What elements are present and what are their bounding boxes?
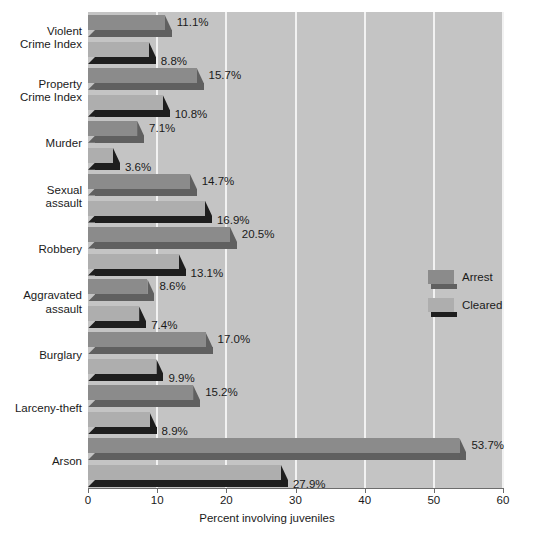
category-label-line: Murder [0, 137, 82, 151]
x-tick-10 [157, 488, 158, 493]
category-label-line: Violent [0, 25, 82, 39]
value-label-cleared-8: 8.9% [162, 425, 188, 437]
category-label-1: ViolentCrime Index [0, 25, 82, 52]
x-tick-label-60: 60 [483, 494, 523, 506]
category-label-line: Burglary [0, 349, 82, 363]
bar-cleared-6 [88, 306, 139, 321]
bar-face [88, 201, 205, 216]
bar-cleared-9 [88, 465, 281, 480]
bar-shadow [95, 57, 156, 64]
bar-shadow [95, 30, 172, 37]
x-tick-40 [365, 488, 366, 493]
bar-shadow [95, 269, 186, 276]
bar-face [88, 332, 206, 347]
value-label-arrest-5: 20.5% [242, 228, 275, 240]
value-label-arrest-4: 14.7% [202, 175, 235, 187]
bar-face [88, 254, 179, 269]
x-tick-60 [503, 488, 504, 493]
bar-face [88, 412, 150, 427]
category-label-8: Larceny-theft [0, 402, 82, 416]
bar-face [88, 438, 459, 453]
category-label-3: Murder [0, 137, 82, 151]
bar-cleared-8 [88, 412, 150, 427]
bar-arrest-2 [88, 68, 197, 83]
category-label-2: PropertyCrime Index [0, 78, 82, 105]
value-label-arrest-3: 7.1% [149, 122, 175, 134]
value-label-arrest-1: 11.1% [177, 16, 209, 28]
bar-shadow [95, 321, 146, 328]
category-label-7: Burglary [0, 349, 82, 363]
bar-arrest-8 [88, 385, 193, 400]
bar-shadow [95, 83, 204, 90]
gridline-30 [295, 12, 297, 488]
bar-arrest-4 [88, 174, 190, 189]
x-tick-label-0: 0 [68, 494, 108, 506]
bar-cleared-1 [88, 42, 149, 57]
bar-cleared-4 [88, 201, 205, 216]
legend-swatch-cleared [428, 298, 454, 312]
bar-arrest-3 [88, 121, 137, 136]
bar-face [88, 148, 113, 163]
value-label-cleared-7: 9.9% [168, 372, 194, 384]
value-label-arrest-9: 53.7% [471, 439, 504, 451]
x-tick-label-10: 10 [137, 494, 177, 506]
x-axis-title: Percent involving juveniles [0, 512, 534, 524]
category-label-line: Property [0, 78, 82, 92]
x-tick-50 [434, 488, 435, 493]
category-label-line: Sexual [0, 184, 82, 198]
bar-arrest-9 [88, 438, 459, 453]
value-label-cleared-6: 7.4% [151, 319, 177, 331]
bar-cleared-7 [88, 359, 156, 374]
value-label-cleared-3: 3.6% [125, 161, 151, 173]
bar-arrest-1 [88, 15, 165, 30]
bar-face [88, 68, 197, 83]
value-label-arrest-7: 17.0% [218, 333, 251, 345]
legend-swatch-shadow [431, 312, 457, 317]
x-tick-label-20: 20 [206, 494, 246, 506]
bar-face [88, 95, 163, 110]
legend-label-cleared: Cleared [462, 299, 502, 311]
category-label-line: Larceny-theft [0, 402, 82, 416]
x-tick-label-40: 40 [345, 494, 385, 506]
bar-shadow [95, 294, 154, 301]
category-label-line: assault [0, 197, 82, 211]
bar-arrest-6 [88, 279, 147, 294]
value-label-cleared-4: 16.9% [217, 214, 250, 226]
legend-label-arrest: Arrest [462, 271, 493, 283]
bar-cleared-3 [88, 148, 113, 163]
value-label-arrest-6: 8.6% [159, 280, 185, 292]
bar-arrest-5 [88, 227, 230, 242]
category-label-line: Aggravated [0, 289, 82, 303]
bar-arrest-7 [88, 332, 206, 347]
bar-shadow [95, 136, 144, 143]
bar-face [88, 359, 156, 374]
bar-face [88, 306, 139, 321]
category-label-line: Robbery [0, 243, 82, 257]
bar-shadow [95, 110, 170, 117]
category-label-6: Aggravatedassault [0, 289, 82, 316]
value-label-arrest-8: 15.2% [205, 386, 238, 398]
category-label-line: Crime Index [0, 91, 82, 105]
bar-face [88, 15, 165, 30]
bar-face [88, 385, 193, 400]
x-tick-30 [296, 488, 297, 493]
bar-face [88, 121, 137, 136]
gridline-40 [364, 12, 366, 488]
value-label-cleared-2: 10.8% [175, 108, 208, 120]
bar-shadow [95, 347, 213, 354]
bar-shadow [95, 427, 157, 434]
bar-shadow [95, 453, 466, 460]
category-label-5: Robbery [0, 243, 82, 257]
x-tick-label-30: 30 [276, 494, 316, 506]
category-label-4: Sexualassault [0, 184, 82, 211]
category-label-line: Crime Index [0, 38, 82, 52]
category-axis-labels: ViolentCrime IndexPropertyCrime IndexMur… [0, 0, 82, 536]
bar-shadow [95, 216, 212, 223]
bar-shadow [95, 374, 163, 381]
category-label-line: Arson [0, 455, 82, 469]
bar-cleared-2 [88, 95, 163, 110]
bar-chart: ViolentCrime IndexPropertyCrime IndexMur… [0, 0, 534, 536]
bar-cleared-5 [88, 254, 179, 269]
legend-swatch-shadow [431, 284, 457, 289]
bar-face [88, 465, 281, 480]
